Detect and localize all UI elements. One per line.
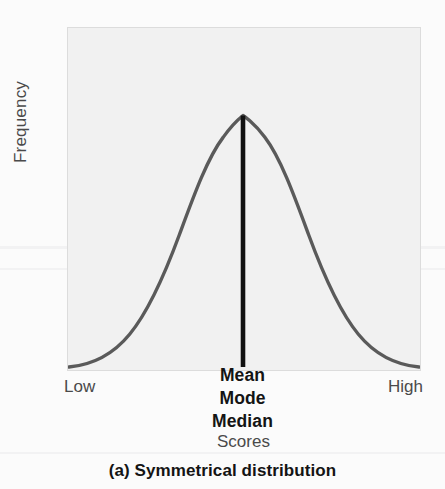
x-axis-title: Scores [0,432,445,452]
figure-caption: (a) Symmetrical distribution [0,461,445,481]
distribution-curve-svg [68,28,420,370]
y-axis-label: Frequency [11,62,31,182]
x-axis-low-label: Low [64,377,95,397]
figure-symmetrical-distribution: Frequency Low High Mean Mode Median Scor… [0,0,445,489]
median-label: Median [0,410,445,433]
central-tendency-labels: Mean Mode Median [0,364,445,433]
plot-area [67,27,421,371]
x-axis-high-label: High [388,377,423,397]
scan-artifact [0,452,445,454]
